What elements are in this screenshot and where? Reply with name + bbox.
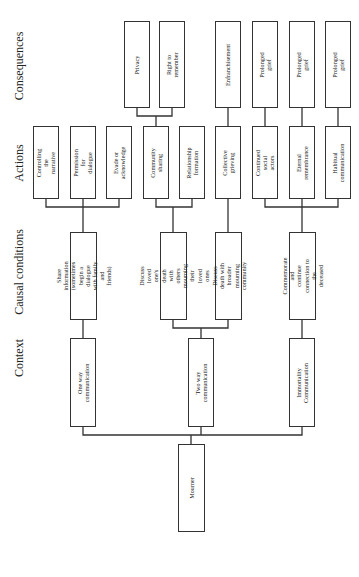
node-label: Controlling the narrative (35, 148, 57, 177)
context-immortality-communication: Immortality Communication (289, 338, 315, 427)
action-continued-social-actors: Continued social actors (252, 126, 278, 199)
node-label: Enfranchisement (224, 44, 231, 86)
node-label: Prolonged grief (258, 52, 272, 77)
header-consequences: Consequences (12, 32, 27, 101)
node-label: Two way communication (194, 363, 208, 402)
consequence-prolonged-grief-2: Prolonged grief (289, 21, 315, 108)
context-two-way-communication: Two way communication (188, 338, 214, 427)
node-label: Habitual communication (331, 143, 345, 181)
node-label: Prolonged grief (295, 52, 309, 77)
root-mourner: Mourner (178, 444, 205, 532)
node-label: Evade or acknowledge (112, 146, 126, 179)
node-label: Mourner (188, 477, 195, 499)
node-label: Prolonged grief (331, 52, 345, 77)
context-one-way-communication: One way communication (70, 338, 96, 427)
action-evade-or-acknowledge: Evade or acknowledge (106, 126, 132, 199)
node-label: Permission for dialogue (72, 149, 94, 177)
node-label: Continued social actors (254, 150, 276, 176)
node-label: Immortality Communication (295, 363, 309, 403)
action-collective-grieving: Collective grieving (215, 126, 241, 199)
node-label: Discuss loved one's death with others mo… (137, 264, 209, 288)
grounded-theory-diagram: Consequences Actions Causal conditions C… (0, 0, 359, 577)
node-label: Eternal remembrance (295, 146, 309, 180)
causal-share-information: Share information (sometimes begin a dia… (70, 232, 97, 320)
consequence-prolonged-grief-1: Prolonged grief (252, 21, 278, 108)
node-label: Relationship formation (185, 147, 199, 178)
consequence-prolonged-grief-3: Prolonged grief (325, 21, 351, 108)
causal-discuss-death-broader-community: Discuss death with broader mourning comm… (215, 232, 242, 320)
header-context: Context (12, 339, 27, 377)
node-label: Right to remember (165, 52, 179, 77)
action-permission-for-dialogue: Permission for dialogue (70, 126, 96, 199)
consequence-privacy: Privacy (124, 21, 150, 108)
consequence-right-to-remember: Right to remember (159, 21, 185, 108)
action-relationship-formation: Relationship formation (179, 126, 205, 199)
node-label: Discuss death with broader mourning comm… (210, 262, 246, 290)
node-label: One way communication (76, 363, 90, 401)
causal-discuss-loved-ones-death: Discuss loved one's death with others mo… (160, 232, 187, 320)
causal-commemorate-and-continue-connection: Commemorate and continue connection to t… (289, 232, 316, 320)
consequence-enfranchisement: Enfranchisement (215, 21, 241, 108)
node-label: Community sharing (149, 148, 163, 178)
node-label: Commemorate and continue connection to t… (281, 258, 324, 295)
action-community-sharing: Community sharing (143, 126, 169, 199)
node-label: Privacy (133, 55, 140, 74)
node-label: Collective grieving (221, 150, 235, 175)
header-actions: Actions (12, 144, 27, 181)
node-label: Share information (sometimes begin a dia… (55, 261, 113, 290)
action-habitual-communication: Habitual communication (325, 126, 351, 199)
action-controlling-the-narrative: Controlling the narrative (33, 126, 59, 199)
header-causal-conditions: Causal conditions (12, 229, 27, 315)
action-eternal-remembrance: Eternal remembrance (289, 126, 315, 199)
